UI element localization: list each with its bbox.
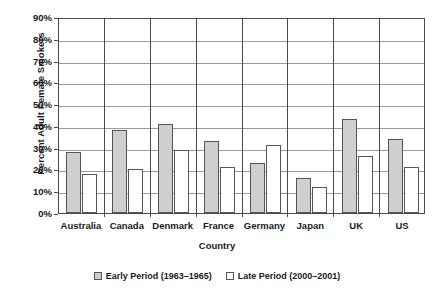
- y-axis-tick: 50%: [16, 100, 52, 110]
- chart-figure: Percent Adult Female Smokers 0%10%20%30%…: [0, 0, 434, 297]
- bar: [296, 178, 311, 213]
- bar-group: [151, 19, 197, 213]
- legend-swatch-icon: [226, 272, 234, 280]
- y-axis-tick-mark: [54, 214, 58, 215]
- y-axis-tick: 30%: [16, 144, 52, 154]
- bar: [82, 174, 97, 213]
- bar: [266, 145, 281, 213]
- y-axis-tick: 10%: [16, 187, 52, 197]
- y-axis-tick: 20%: [16, 166, 52, 176]
- legend-swatch-icon: [94, 272, 102, 280]
- bar: [66, 152, 81, 213]
- chart-legend: Early Period (1963–1965)Late Period (200…: [0, 271, 434, 281]
- bar-group: [380, 19, 426, 213]
- bar: [312, 187, 327, 213]
- x-axis-tick: Denmark: [150, 220, 196, 231]
- bar-group: [105, 19, 151, 213]
- bar-group: [288, 19, 334, 213]
- x-axis-tick: Japan: [287, 220, 333, 231]
- bar: [158, 124, 173, 213]
- bar: [112, 130, 127, 213]
- legend-item: Late Period (2000–2001): [226, 271, 341, 281]
- bar-group: [197, 19, 243, 213]
- y-axis-tick: 60%: [16, 79, 52, 89]
- bar: [204, 141, 219, 213]
- legend-item: Early Period (1963–1965): [94, 271, 212, 281]
- x-axis-tick: Australia: [58, 220, 104, 231]
- bar: [250, 163, 265, 213]
- x-axis-tick: UK: [333, 220, 379, 231]
- x-axis-tick: Germany: [242, 220, 288, 231]
- y-axis-tick: 40%: [16, 122, 52, 132]
- y-axis-tick: 70%: [16, 57, 52, 67]
- bar: [174, 150, 189, 213]
- legend-label: Early Period (1963–1965): [106, 271, 212, 281]
- bar: [128, 169, 143, 213]
- legend-label: Late Period (2000–2001): [238, 271, 341, 281]
- bar-group: [59, 19, 105, 213]
- plot-area: [58, 18, 425, 214]
- bar-group: [334, 19, 380, 213]
- y-axis-tick: 0%: [16, 209, 52, 219]
- bar: [358, 156, 373, 213]
- y-axis-tick: 90%: [16, 13, 52, 23]
- x-axis-tick: France: [196, 220, 242, 231]
- x-axis-tick: Canada: [104, 220, 150, 231]
- bar: [404, 167, 419, 213]
- bar: [220, 167, 235, 213]
- y-axis-tick: 80%: [16, 35, 52, 45]
- bar: [342, 119, 357, 213]
- x-axis-tick: US: [379, 220, 425, 231]
- bar: [388, 139, 403, 213]
- bar-group: [243, 19, 289, 213]
- x-axis-title: Country: [0, 240, 434, 251]
